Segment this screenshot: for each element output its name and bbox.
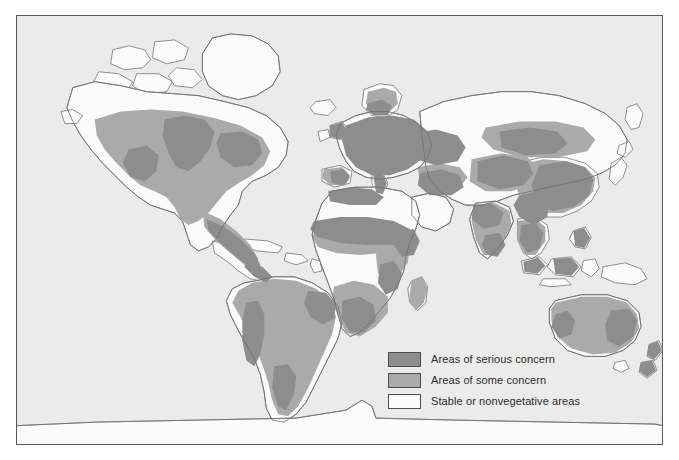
world-map-figure: Areas of serious concern Areas of some c… bbox=[0, 0, 679, 460]
legend-row-some-concern: Areas of some concern bbox=[388, 370, 618, 390]
legend-row-stable: Stable or nonvegetative areas bbox=[388, 391, 618, 411]
legend-label-some-concern: Areas of some concern bbox=[431, 374, 546, 387]
legend-label-serious-concern: Areas of serious concern bbox=[431, 353, 555, 366]
land-arctic-islands bbox=[111, 46, 151, 70]
legend-swatch-serious-concern bbox=[388, 352, 421, 367]
map-legend: Areas of serious concern Areas of some c… bbox=[388, 345, 618, 416]
map-frame: Areas of serious concern Areas of some c… bbox=[16, 15, 663, 445]
land-java bbox=[539, 279, 571, 287]
legend-swatch-stable bbox=[388, 394, 421, 409]
legend-label-stable: Stable or nonvegetative areas bbox=[431, 395, 580, 408]
legend-swatch-some-concern bbox=[388, 373, 421, 388]
legend-row-serious-concern: Areas of serious concern bbox=[388, 349, 618, 369]
